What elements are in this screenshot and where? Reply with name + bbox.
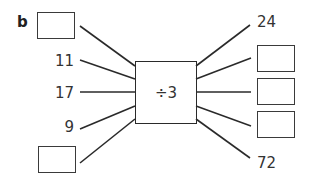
operation-label: ÷3	[155, 84, 177, 102]
connector-input-2	[80, 60, 135, 79]
output-answer-box-2[interactable]	[257, 45, 295, 72]
connector-input-1	[80, 26, 135, 66]
function-machine-diagram: b 11 17 9 ÷3 24 72	[0, 0, 311, 182]
output-number-72: 72	[257, 156, 276, 171]
input-number-11: 11	[44, 54, 74, 69]
output-number-24: 24	[257, 15, 276, 30]
output-answer-box-4[interactable]	[257, 111, 295, 138]
input-number-9: 9	[44, 120, 74, 135]
part-label: b	[17, 15, 28, 30]
input-answer-box-5[interactable]	[38, 146, 76, 173]
connector-output-5	[196, 119, 250, 158]
connector-output-4	[196, 106, 251, 126]
input-answer-box-1[interactable]	[37, 12, 75, 39]
connector-output-2	[196, 58, 251, 79]
operation-box: ÷3	[135, 61, 197, 124]
output-answer-box-3[interactable]	[257, 78, 295, 105]
connector-output-1	[196, 25, 250, 66]
input-number-17: 17	[44, 86, 74, 101]
